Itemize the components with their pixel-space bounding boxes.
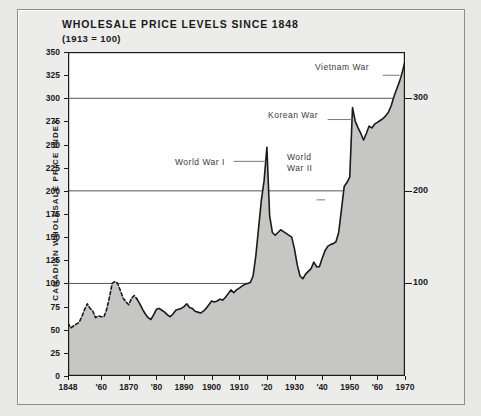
chart-canvas xyxy=(68,52,405,376)
y-tick-mark-right xyxy=(405,191,412,192)
x-tick-mark xyxy=(156,376,157,380)
y-tick-label: 50 xyxy=(30,325,60,335)
annotation-vietnam-war: Vietnam War xyxy=(315,62,369,73)
annotation-world-war-2: World War II xyxy=(287,152,312,174)
y-tick-label-right: 200 xyxy=(413,185,428,195)
chart-figure: WHOLESALE PRICE LEVELS SINCE 1848 (1913 … xyxy=(0,0,481,416)
y-tick-label: 0 xyxy=(30,371,60,381)
y-tick-label: 125 xyxy=(30,255,60,265)
x-tick-mark xyxy=(322,376,323,380)
y-tick-label: 200 xyxy=(30,186,60,196)
x-tick-mark xyxy=(239,376,240,380)
y-tick-label: 325 xyxy=(30,70,60,80)
annotation-korean-war: Korean War xyxy=(268,110,318,121)
chart-title: WHOLESALE PRICE LEVELS SINCE 1848 xyxy=(62,18,299,30)
annotation-world-war-2-line2: War II xyxy=(287,163,312,174)
y-tick-label: 300 xyxy=(30,93,60,103)
y-tick-label-right: 100 xyxy=(413,277,428,287)
y-tick-label: 150 xyxy=(30,232,60,242)
x-tick-mark xyxy=(101,376,102,380)
y-tick-label: 175 xyxy=(30,209,60,219)
y-tick-label: 25 xyxy=(30,348,60,358)
y-tick-label: 350 xyxy=(30,47,60,57)
x-tick-mark xyxy=(377,376,378,380)
y-tick-label-right: 300 xyxy=(413,92,428,102)
annotation-world-war-1: World War I xyxy=(175,157,225,168)
y-tick-label: 100 xyxy=(30,278,60,288)
y-tick-mark-right xyxy=(405,283,412,284)
x-tick-mark xyxy=(129,376,130,380)
y-tick-label: 250 xyxy=(30,140,60,150)
y-tick-label: 225 xyxy=(30,163,60,173)
x-tick-mark xyxy=(295,376,296,380)
chart-subtitle: (1913 = 100) xyxy=(62,33,121,44)
x-tick-label: 1970 xyxy=(380,382,430,392)
x-tick-mark xyxy=(405,376,406,380)
y-tick-label: 275 xyxy=(30,116,60,126)
x-tick-mark xyxy=(267,376,268,380)
y-tick-mark-right xyxy=(405,98,412,99)
x-tick-mark xyxy=(350,376,351,380)
plot-area xyxy=(68,52,405,376)
x-tick-mark xyxy=(184,376,185,380)
annotation-world-war-2-line1: World xyxy=(287,152,312,163)
x-tick-mark xyxy=(212,376,213,380)
x-tick-mark xyxy=(68,376,69,380)
y-tick-label: 75 xyxy=(30,302,60,312)
